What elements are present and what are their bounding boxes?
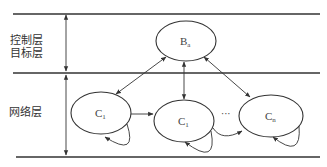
- ellipsis-text: ···: [221, 108, 231, 119]
- control-layer-label: 控制层: [10, 34, 43, 47]
- control-target-layer-label: 控制层 目标层: [10, 34, 43, 60]
- node-b: Ba: [156, 21, 216, 61]
- edge-c-middle-c-right: [213, 128, 242, 136]
- node-c-right: Cn: [239, 95, 303, 137]
- network-layer-label: 网络层: [9, 106, 42, 119]
- target-layer-label: 目标层: [10, 47, 43, 60]
- node-c-left: C1: [71, 92, 131, 134]
- edge-b-c-right: [204, 57, 250, 97]
- edge-b-c-left: [116, 57, 166, 94]
- layer-diagram: Ba C1 C1 Cn ···: [0, 0, 327, 167]
- node-c-middle: C1: [154, 100, 214, 142]
